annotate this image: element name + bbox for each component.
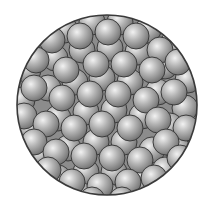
- sphere: [89, 111, 115, 137]
- sphere: [123, 23, 149, 49]
- sphere: [165, 49, 191, 75]
- sphere: [21, 75, 47, 101]
- sphere: [111, 51, 137, 77]
- sphere: [161, 79, 187, 105]
- sphere: [77, 81, 103, 107]
- sphere: [83, 51, 109, 77]
- sphere-packing-figure: [0, 0, 212, 207]
- sphere: [53, 57, 79, 83]
- sphere: [99, 145, 125, 171]
- sphere: [71, 143, 97, 169]
- sphere: [67, 23, 93, 49]
- sphere: [61, 115, 87, 141]
- sphere: [139, 57, 165, 83]
- sphere: [95, 19, 121, 45]
- sphere: [117, 115, 143, 141]
- sphere: [49, 85, 75, 111]
- sphere: [105, 81, 131, 107]
